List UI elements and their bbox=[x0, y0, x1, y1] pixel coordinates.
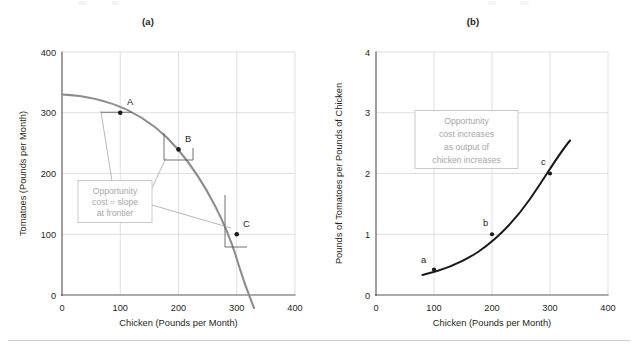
point-a-label: a bbox=[421, 254, 427, 265]
point-B-label: B bbox=[185, 133, 191, 144]
panel-a-ytick-400: 400 bbox=[41, 48, 56, 58]
panel-a-label: (a) bbox=[0, 16, 308, 27]
panel-b-x-axis-title: Chicken (Pounds per Month) bbox=[433, 318, 551, 328]
panel-b-label: (b) bbox=[314, 16, 632, 27]
panel-b-xtick-0: 0 bbox=[373, 303, 378, 313]
panel-a-xtick-400: 400 bbox=[287, 303, 302, 313]
panel-a-gridlines bbox=[62, 52, 295, 295]
point-c-label: c bbox=[541, 156, 546, 167]
point-A-label: A bbox=[127, 96, 134, 107]
panel-b-y-ticklabels: 4 3 2 1 0 bbox=[365, 48, 370, 301]
callout-b-line-3: as output of bbox=[444, 142, 490, 152]
callout-b-line-2: cost increases bbox=[439, 129, 494, 139]
figure-root: (a) bbox=[0, 0, 638, 348]
panel-b-svg: Opportunity cost increases as output of … bbox=[320, 0, 638, 330]
panel-b-xtick-400: 400 bbox=[600, 303, 615, 313]
panel-b-ytick-2: 2 bbox=[365, 169, 370, 179]
panel-a-ytick-0: 0 bbox=[51, 291, 56, 301]
panel-a-xtick-200: 200 bbox=[171, 303, 186, 313]
panel-b-ytick-3: 3 bbox=[365, 108, 370, 118]
callout-a-line-2: cost = slope bbox=[92, 197, 138, 207]
panel-a-callout: Opportunity cost = slope at frontier bbox=[78, 181, 152, 223]
callout-a-line-3: at frontier bbox=[97, 208, 133, 218]
panel-b-ytick-1: 1 bbox=[365, 230, 370, 240]
panel-b-xtick-200: 200 bbox=[484, 303, 499, 313]
panel-a-y-ticklabels: 400 300 200 100 0 bbox=[41, 48, 56, 301]
panel-a-svg: Opportunity cost = slope at frontier A B… bbox=[0, 0, 320, 330]
panel-b-gridlines bbox=[376, 52, 608, 295]
panel-a-xtick-300: 300 bbox=[229, 303, 244, 313]
point-C-marker bbox=[234, 232, 239, 237]
panel-b-xtick-300: 300 bbox=[542, 303, 557, 313]
panel-a-ytick-300: 300 bbox=[41, 108, 56, 118]
panel-b-ytick-4: 4 bbox=[365, 48, 370, 58]
panel-a-x-ticklabels: 0 100 200 300 400 bbox=[59, 303, 302, 313]
point-b-label: b bbox=[483, 217, 488, 228]
callout-b-line-1: Opportunity bbox=[444, 116, 489, 126]
chart-panel-b: (b) Op bbox=[320, 0, 638, 348]
panel-b-xtick-100: 100 bbox=[426, 303, 441, 313]
panel-a-xtick-100: 100 bbox=[113, 303, 128, 313]
callout-a-line-1: Opportunity bbox=[93, 186, 138, 196]
panel-b-callout: Opportunity cost increases as output of … bbox=[415, 111, 518, 169]
panel-a-x-axis-title: Chicken (Pounds per Month) bbox=[119, 318, 237, 328]
panel-a-xtick-0: 0 bbox=[59, 303, 64, 313]
bottom-divider bbox=[8, 340, 630, 341]
point-b-marker bbox=[490, 232, 494, 236]
panel-b-x-ticklabels: 0 100 200 300 400 bbox=[373, 303, 615, 313]
point-a-marker bbox=[432, 267, 436, 271]
panel-a-ytick-100: 100 bbox=[41, 230, 56, 240]
point-C-label: C bbox=[243, 218, 250, 229]
point-A-marker bbox=[118, 110, 123, 115]
panel-b-ytick-0: 0 bbox=[365, 291, 370, 301]
callout-b-line-4: chicken increases bbox=[432, 155, 500, 165]
panel-a-slope-triangle-A bbox=[101, 112, 132, 113]
panel-b-y-axis-title: Pounds of Tomatoes per Pounds of Chicken bbox=[334, 83, 344, 264]
panel-a-ytick-200: 200 bbox=[41, 169, 56, 179]
point-B-marker bbox=[176, 147, 181, 152]
point-c-marker bbox=[548, 171, 552, 175]
chart-panel-a: (a) bbox=[0, 0, 320, 348]
panel-a-y-axis-title: Tomatoes (Pounds per Month) bbox=[18, 111, 28, 236]
